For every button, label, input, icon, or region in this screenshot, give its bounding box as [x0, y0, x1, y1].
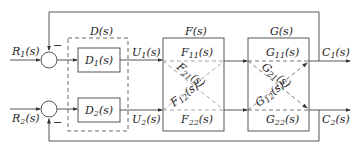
- summing-junction-1: [41, 52, 57, 68]
- plant-f-title: F(s): [184, 25, 207, 38]
- plant-g-title: G(s): [270, 25, 293, 38]
- f12-label: F12(s): [167, 79, 202, 110]
- input-label-r2: R2(s): [11, 112, 40, 126]
- input-label-r1: R1(s): [11, 45, 40, 59]
- g11-label: G11(s): [266, 46, 299, 60]
- block-d1-label: D1(s): [84, 54, 113, 68]
- signal-u2: U2(s): [132, 113, 161, 127]
- output-label-c2: C2(s): [322, 113, 350, 127]
- minus-sign-2: −: [53, 116, 62, 129]
- g22-label: G22(s): [266, 113, 299, 127]
- controller-title: D(s): [89, 25, 113, 38]
- output-label-c1: C1(s): [322, 46, 350, 60]
- block-diagram: − − R1(s) R2(s) D(s) D1(s) D2(s) U1(s) U…: [0, 0, 360, 149]
- signal-u1: U1(s): [132, 46, 161, 60]
- g12-label: G12(s): [253, 79, 288, 110]
- minus-sign-1: −: [53, 39, 62, 52]
- f11-label: F11(s): [180, 46, 213, 60]
- block-d2-label: D2(s): [84, 104, 113, 118]
- summing-junction-2: [41, 101, 57, 117]
- f22-label: F22(s): [180, 113, 213, 127]
